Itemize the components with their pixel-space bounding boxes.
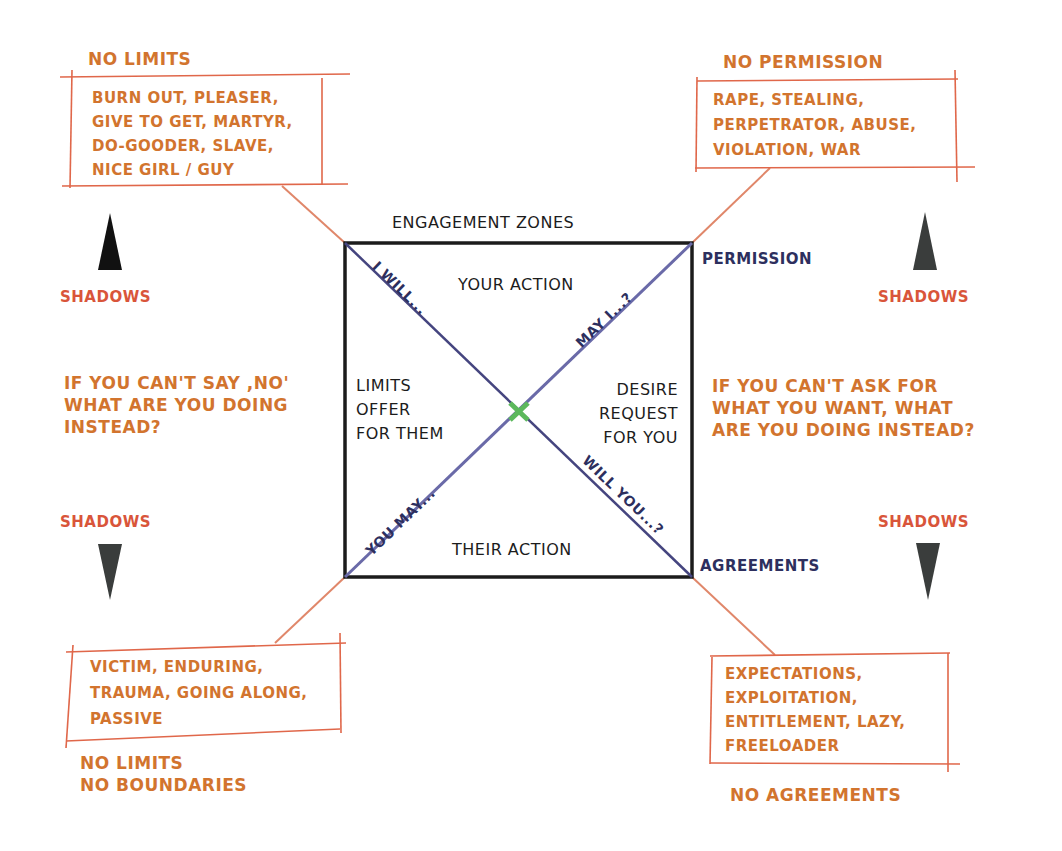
top-left-box-text: BURN OUT, PLEASER, GIVE TO GET, MARTYR, … xyxy=(92,86,293,182)
quadrant-right-label: DESIRE REQUEST FOR YOU xyxy=(580,378,678,450)
quadrant-bottom-label: THEIR ACTION xyxy=(452,540,572,559)
shadow-up-arrow-left xyxy=(98,213,122,270)
bottom-left-footer: NO LIMITS NO BOUNDARIES xyxy=(80,752,247,796)
top-left-heading: NO LIMITS xyxy=(88,49,191,69)
shadow-up-arrow-right xyxy=(913,212,937,270)
shadows-label-top-right: SHADOWS xyxy=(878,288,969,306)
connector-bottom-right xyxy=(692,577,775,655)
quadrant-top-label: YOUR ACTION xyxy=(458,275,574,294)
left-question: IF YOU CAN'T SAY ,NO' WHAT ARE YOU DOING… xyxy=(64,372,289,438)
corner-label-agreements: AGREEMENTS xyxy=(700,557,820,575)
shadows-label-bottom-right: SHADOWS xyxy=(878,513,969,531)
shadow-down-arrow-left xyxy=(98,544,122,600)
bottom-right-footer: NO AGREEMENTS xyxy=(730,785,901,805)
connector-top-right xyxy=(692,168,770,243)
quadrant-left-label: LIMITS OFFER FOR THEM xyxy=(356,374,444,446)
connector-bottom-left xyxy=(275,577,345,643)
center-mark xyxy=(510,403,528,420)
diagram-title: ENGAGEMENT ZONES xyxy=(392,213,574,232)
bottom-left-box-text: VICTIM, ENDURING, TRAUMA, GOING ALONG, P… xyxy=(90,654,308,732)
corner-label-permission: PERMISSION xyxy=(702,250,812,268)
shadow-down-arrow-right xyxy=(916,543,940,600)
bottom-right-box-text: EXPECTATIONS, EXPLOITATION, ENTITLEMENT,… xyxy=(725,662,906,758)
right-question: IF YOU CAN'T ASK FOR WHAT YOU WANT, WHAT… xyxy=(712,375,975,441)
connector-top-left xyxy=(282,186,345,243)
shadows-label-top-left: SHADOWS xyxy=(60,288,151,306)
top-right-box-text: RAPE, STEALING, PERPETRATOR, ABUSE, VIOL… xyxy=(713,88,916,163)
top-right-heading: NO PERMISSION xyxy=(723,52,883,72)
shadows-label-bottom-left: SHADOWS xyxy=(60,513,151,531)
